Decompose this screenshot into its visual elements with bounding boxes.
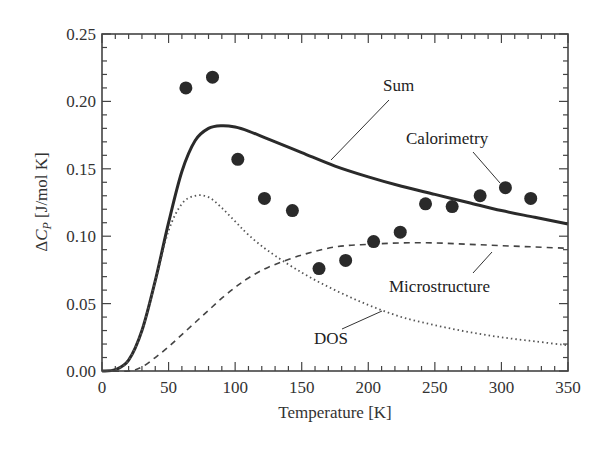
- y-tick-label: 0.25: [66, 25, 96, 44]
- y-axis-title: ΔCP [J/mol K]: [32, 152, 54, 252]
- annotation-calorimetry: Calorimetry: [406, 129, 500, 183]
- calorimetry-data-point: [313, 262, 326, 275]
- x-tick-labels: 050100150200250300350: [98, 378, 581, 397]
- chart: 050100150200250300350 0.000.050.100.150.…: [0, 0, 605, 454]
- calorimetry-data-point: [446, 200, 459, 213]
- annotation-microstructure-label: Microstructure: [389, 277, 490, 296]
- calorimetry-data-point: [231, 153, 244, 166]
- leader-line-calorimetry: [473, 152, 500, 183]
- annotation-dos: DOS: [314, 311, 382, 348]
- y-tick-labels: 0.000.050.100.150.200.25: [66, 25, 96, 381]
- annotation-microstructure: Microstructure: [389, 252, 492, 296]
- annotation-dos-label: DOS: [314, 329, 348, 348]
- annotation-calorimetry-label: Calorimetry: [406, 129, 489, 148]
- x-tick-label: 250: [422, 378, 448, 397]
- x-tick-label: 0: [98, 378, 107, 397]
- x-tick-label: 350: [555, 378, 581, 397]
- calorimetry-data-point: [258, 192, 271, 205]
- y-tick-label: 0.20: [66, 92, 96, 111]
- leader-line-microstructure: [473, 252, 492, 273]
- annotation-sum-label: Sum: [383, 76, 414, 95]
- calorimetry-data-point: [179, 81, 192, 94]
- x-axis-title: Temperature [K]: [278, 403, 392, 422]
- calorimetry-data-point: [394, 226, 407, 239]
- x-tick-label: 100: [222, 378, 248, 397]
- x-tick-label: 50: [160, 378, 177, 397]
- y-tick-label: 0.15: [66, 160, 96, 179]
- x-tick-label: 200: [356, 378, 382, 397]
- leader-line-dos: [342, 311, 382, 329]
- plot-frame: [102, 34, 568, 371]
- x-tick-label: 150: [289, 378, 315, 397]
- leader-line-sum: [331, 100, 389, 160]
- calorimetry-data-point: [206, 71, 219, 84]
- calorimetry-data-point: [524, 192, 537, 205]
- annotation-sum: Sum: [331, 76, 414, 160]
- x-tick-label: 300: [489, 378, 515, 397]
- calorimetry-data-point: [339, 254, 352, 267]
- calorimetry-data-point: [474, 189, 487, 202]
- y-tick-label: 0.05: [66, 295, 96, 314]
- calorimetry-data-point: [499, 181, 512, 194]
- y-tick-label: 0.10: [66, 227, 96, 246]
- axis-ticks: [102, 34, 568, 371]
- calorimetry-data-point: [367, 235, 380, 248]
- calorimetry-data-point: [419, 197, 432, 210]
- calorimetry-data-point: [286, 204, 299, 217]
- curve-microstructure: [102, 243, 568, 372]
- y-tick-label: 0.00: [66, 362, 96, 381]
- data-series: [102, 71, 568, 372]
